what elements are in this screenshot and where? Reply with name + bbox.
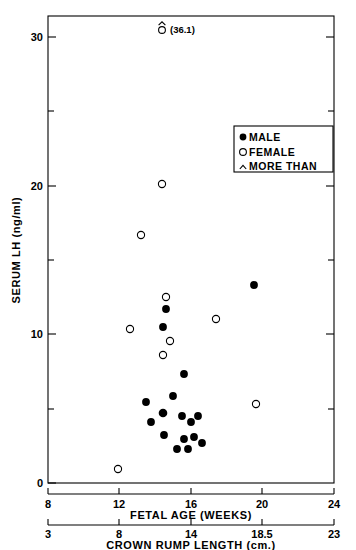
data-point-female-offscale: (36.1) (159, 22, 195, 35)
legend: MALE FEMALE MORE THAN (234, 126, 333, 172)
x-tick-label-20: 20 (256, 498, 268, 510)
data-point-male (142, 398, 150, 406)
data-point-male (190, 433, 198, 441)
data-point-male (187, 418, 195, 426)
data-point-male (198, 439, 206, 447)
x2-tick-label-3: 3 (45, 528, 51, 540)
y-tick-label-20: 20 (31, 180, 43, 192)
data-point-female (212, 315, 219, 322)
x2-tick-label-23: 23 (328, 528, 340, 540)
data-point-male (250, 281, 258, 289)
x-axis-secondary (48, 519, 334, 525)
offscale-value-annotation: (36.1) (170, 24, 195, 35)
data-point-female (252, 400, 259, 407)
data-point-female (162, 293, 169, 300)
data-point-male (180, 370, 188, 378)
plot-frame (48, 16, 334, 483)
data-point-female (126, 325, 133, 332)
x-axis-primary (48, 488, 334, 494)
data-point-male (169, 392, 177, 400)
x-tick-label-8: 8 (45, 498, 51, 510)
data-point-male (160, 431, 168, 439)
y-tick-label-30: 30 (31, 31, 43, 43)
data-point-female (166, 337, 173, 344)
data-point-male (162, 305, 170, 313)
data-point-female (158, 180, 165, 187)
data-point-male (159, 409, 168, 418)
data-point-male (159, 323, 167, 331)
x-tick-label-24: 24 (328, 498, 341, 510)
data-point-male (184, 445, 192, 453)
x-tick-label-12: 12 (113, 498, 125, 510)
chart-figure: 0 10 20 30 SERUM LH (ng/ml) (36.1) (0, 0, 356, 550)
legend-marker-male-icon (240, 134, 247, 141)
data-point-female (114, 465, 121, 472)
y-axis-title: SERUM LH (ng/ml) (10, 197, 22, 304)
legend-marker-female-icon (240, 149, 247, 156)
data-point-male (147, 418, 155, 426)
y-tick-label-0: 0 (37, 477, 43, 489)
data-point-male (180, 435, 188, 443)
data-point-female (159, 351, 166, 358)
legend-label-female: FEMALE (249, 146, 295, 158)
data-point-female (137, 231, 144, 238)
x-axis-title-secondary: CROWN RUMP LENGTH (cm.) (106, 539, 275, 550)
legend-label-male: MALE (249, 131, 281, 143)
legend-label-more-than: MORE THAN (249, 160, 317, 172)
data-point-female (159, 27, 166, 34)
data-point-male (194, 412, 202, 420)
scatter-plot-svg: 0 10 20 30 SERUM LH (ng/ml) (36.1) (0, 0, 356, 550)
data-point-male (178, 412, 186, 420)
y-tick-label-10: 10 (31, 328, 43, 340)
data-point-male (173, 445, 181, 453)
